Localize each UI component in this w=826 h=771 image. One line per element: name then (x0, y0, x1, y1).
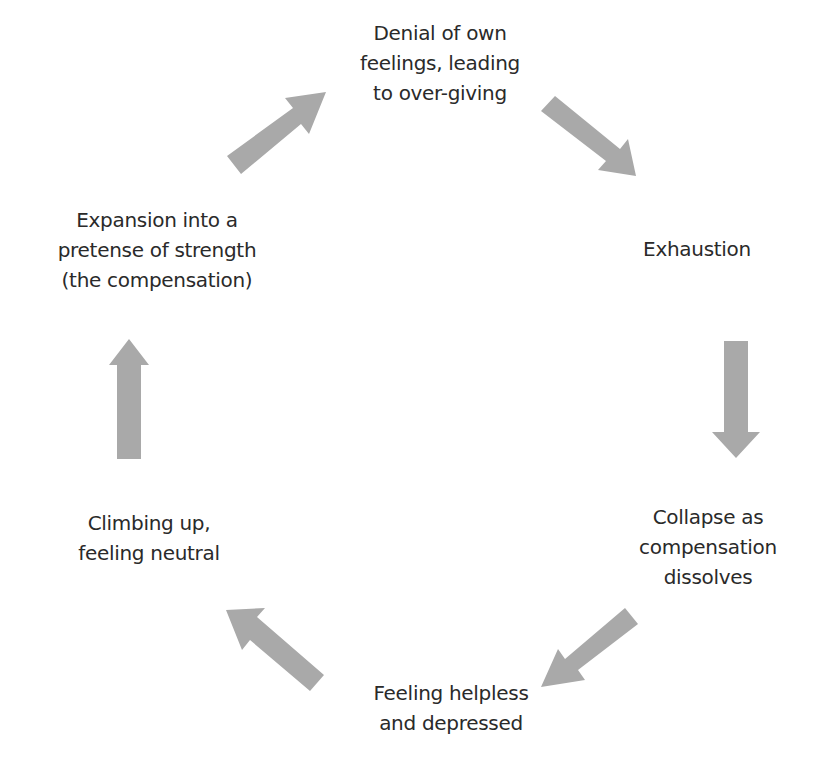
node-climbing-line-2: feeling neutral (78, 538, 220, 568)
node-expansion-line-3: (the compensation) (58, 265, 257, 295)
arrow-down-icon (712, 341, 760, 458)
arrow-down-right-icon (541, 96, 636, 176)
node-collapse-line-1: Collapse as (639, 502, 777, 532)
arrow-up-icon (109, 339, 149, 459)
arrow-up-right-icon (227, 92, 326, 174)
node-exhaustion: Exhaustion (643, 234, 751, 264)
arrow-up-left-icon (226, 608, 324, 691)
node-collapse: Collapse as compensation dissolves (639, 502, 777, 592)
node-expansion-line-1: Expansion into a (58, 205, 257, 235)
node-denial-line-3: to over-giving (360, 78, 520, 108)
arrow-down-left-icon (541, 608, 638, 687)
node-climbing-line-1: Climbing up, (78, 508, 220, 538)
node-exhaustion-line-1: Exhaustion (643, 234, 751, 264)
node-climbing: Climbing up, feeling neutral (78, 508, 220, 568)
node-helpless-line-1: Feeling helpless (374, 678, 529, 708)
node-expansion-line-2: pretense of strength (58, 235, 257, 265)
node-collapse-line-2: compensation (639, 532, 777, 562)
node-denial-line-1: Denial of own (360, 18, 520, 48)
node-helpless: Feeling helpless and depressed (374, 678, 529, 738)
node-collapse-line-3: dissolves (639, 562, 777, 592)
node-denial-line-2: feelings, leading (360, 48, 520, 78)
node-helpless-line-2: and depressed (374, 708, 529, 738)
node-denial: Denial of own feelings, leading to over-… (360, 18, 520, 108)
cycle-arrows (0, 0, 826, 771)
node-expansion: Expansion into a pretense of strength (t… (58, 205, 257, 295)
